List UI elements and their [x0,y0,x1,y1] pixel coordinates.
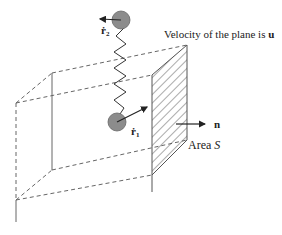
box-top-front-edge [16,75,152,103]
diagram-canvas: ṙ2 ṙ1 n Area S Velocity of the plane is … [0,0,282,235]
box-bottom-front-edge [16,175,152,200]
plane-area-s [140,40,200,192]
label-r2: ṙ2 [101,24,110,38]
caption-velocity: Velocity of the plane is u [164,28,274,40]
box-bottom-left-diagonal [16,170,52,200]
particle-2: ṙ2 [100,11,130,38]
label-area-s: Area S [188,138,220,152]
box-top-left-diagonal [16,73,52,103]
particle-1: ṙ1 [108,107,147,139]
label-n: n [214,118,220,130]
spring [114,28,126,114]
label-r1: ṙ1 [131,125,140,139]
